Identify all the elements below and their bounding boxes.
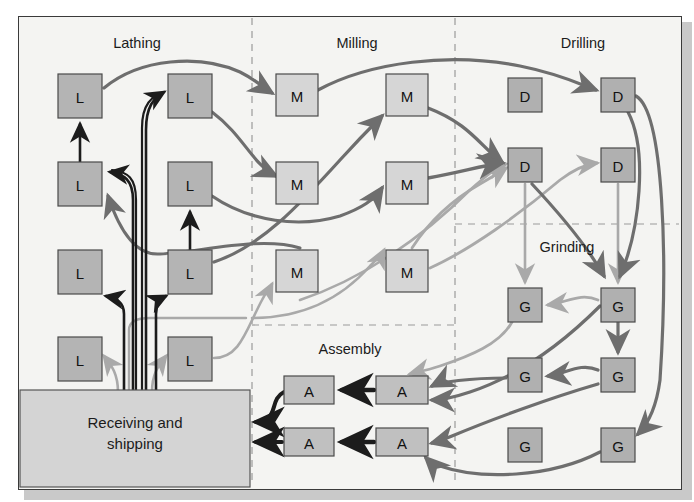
machine-l6[interactable]: L — [168, 250, 212, 294]
label-grinding: Grinding — [540, 239, 595, 255]
machine-a3[interactable]: A — [284, 428, 334, 456]
flow-receiving-to-L6 — [156, 296, 166, 390]
receiving-block-line2: shipping — [107, 435, 163, 452]
machine-m6[interactable]: M — [386, 250, 428, 292]
label-assembly: Assembly — [319, 341, 383, 357]
machine-l3[interactable]: L — [58, 162, 102, 206]
flow-M4-to-D3 — [428, 163, 502, 178]
machine-label: G — [612, 298, 624, 315]
machine-label: M — [291, 88, 304, 105]
machine-label: M — [291, 264, 304, 281]
receiving-block-line1: Receiving and — [87, 414, 182, 431]
flow-G1-to-A2 — [410, 322, 512, 374]
machine-label: D — [613, 88, 624, 105]
machine-g3[interactable]: G — [508, 358, 542, 392]
machine-label: D — [520, 88, 531, 105]
label-drilling: Drilling — [561, 35, 605, 51]
machine-label: L — [186, 177, 194, 194]
machine-l4[interactable]: L — [168, 162, 212, 206]
flow-D2-to-G6 — [636, 96, 664, 434]
machine-label: A — [397, 435, 407, 452]
machine-l8[interactable]: L — [168, 337, 212, 381]
flow-L2-to-M3 — [212, 112, 276, 176]
machine-label: L — [186, 265, 194, 282]
machine-l2[interactable]: L — [168, 74, 212, 118]
machine-label: A — [304, 383, 314, 400]
machine-d4[interactable]: D — [601, 148, 635, 182]
label-milling: Milling — [336, 35, 377, 51]
flow-D2-alt-to-G2 — [532, 184, 604, 276]
machine-m2[interactable]: M — [386, 74, 428, 116]
machine-d3[interactable]: D — [508, 148, 542, 182]
machine-label: A — [304, 435, 314, 452]
flow-G2-to-G1 — [548, 297, 598, 305]
diagram-stage: Receiving and shipping LLLLLLLLMMMMMMDDD… — [0, 0, 694, 502]
machine-label: D — [613, 158, 624, 175]
machine-a4[interactable]: A — [376, 428, 428, 456]
machine-l7[interactable]: L — [58, 337, 102, 381]
machine-m4[interactable]: M — [386, 162, 428, 204]
machine-a2[interactable]: A — [376, 376, 428, 404]
machine-label: A — [397, 383, 407, 400]
flow-D2-to-G2 — [620, 112, 640, 276]
flow-diagram-svg: Receiving and shipping LLLLLLLLMMMMMMDDD… — [0, 0, 694, 502]
machine-g4[interactable]: G — [601, 358, 635, 392]
receiving-and-shipping-block[interactable]: Receiving and shipping — [20, 390, 250, 487]
machine-m1[interactable]: M — [276, 74, 318, 116]
machine-label: M — [291, 176, 304, 193]
machine-g1[interactable]: G — [508, 288, 542, 322]
flow-receiving-to-L7 — [104, 356, 118, 392]
machine-label: M — [401, 176, 414, 193]
flow-receiving-to-L8 — [152, 356, 166, 392]
machine-label: G — [519, 438, 531, 455]
machine-label: L — [186, 89, 194, 106]
machine-label: L — [186, 352, 194, 369]
flow-A1-to-receiving — [256, 392, 284, 422]
machine-g2[interactable]: G — [601, 288, 635, 322]
machine-a1[interactable]: A — [284, 376, 334, 404]
machine-label: L — [76, 265, 84, 282]
machine-label: L — [76, 177, 84, 194]
machine-label: L — [76, 352, 84, 369]
flow-M2-to-D3 — [428, 108, 502, 162]
label-lathing: Lathing — [113, 35, 161, 51]
machine-l1[interactable]: L — [58, 74, 102, 118]
machine-label: G — [612, 368, 624, 385]
machine-label: M — [401, 88, 414, 105]
machine-g5[interactable]: G — [508, 428, 542, 462]
machine-label: M — [401, 264, 414, 281]
machine-m5[interactable]: M — [276, 250, 318, 292]
machine-l5[interactable]: L — [58, 250, 102, 294]
machine-m3[interactable]: M — [276, 162, 318, 204]
machine-d2[interactable]: D — [601, 78, 635, 112]
machine-label: G — [612, 438, 624, 455]
machine-g6[interactable]: G — [601, 428, 635, 462]
flow-G4-to-G3 — [548, 367, 598, 376]
machine-label: D — [520, 158, 531, 175]
flow-M1-to-D2 — [318, 60, 596, 90]
machine-d1[interactable]: D — [508, 78, 542, 112]
machine-label: G — [519, 368, 531, 385]
machine-label: G — [519, 298, 531, 315]
machine-label: L — [76, 89, 84, 106]
flow-L8-to-M5 — [214, 284, 272, 358]
